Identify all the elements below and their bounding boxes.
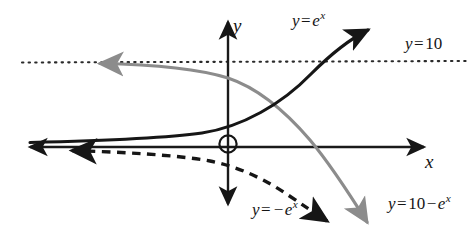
asymptote-equals: =	[413, 34, 426, 53]
neg-exp-lhs: y	[252, 200, 260, 219]
exp-lhs: y	[292, 11, 300, 30]
ten-exp-equals: =	[396, 194, 409, 213]
exp-base: e	[312, 11, 320, 30]
curve-exp	[30, 30, 368, 143]
curve-label-exp: y=ex	[292, 12, 325, 29]
curve-ten-minus-exp	[100, 64, 367, 223]
asymptote-label: y=10	[405, 35, 442, 52]
asymptote-line-y10	[22, 61, 466, 63]
ten-exp-exponent: x	[445, 192, 450, 204]
neg-exp-equals: =	[260, 200, 273, 219]
asymptote-value: 10	[425, 34, 442, 53]
math-figure: y x y=ex y=10 y=−ex y=10−ex	[0, 0, 476, 238]
asymptote-lhs: y	[405, 34, 413, 53]
neg-exp-exponent: x	[292, 198, 297, 210]
ten-exp-value: 10	[408, 194, 425, 213]
exp-exponent: x	[320, 9, 325, 21]
curve-label-neg-exp: y=−ex	[252, 201, 298, 218]
exp-equals: =	[300, 11, 313, 30]
curve-label-ten-minus-exp: y=10−ex	[388, 195, 451, 212]
ten-exp-minus: −	[425, 194, 438, 213]
y-axis-label: y	[233, 16, 241, 35]
neg-exp-sign: −	[272, 200, 285, 219]
ten-exp-lhs: y	[388, 194, 396, 213]
x-axis-label: x	[425, 152, 433, 171]
